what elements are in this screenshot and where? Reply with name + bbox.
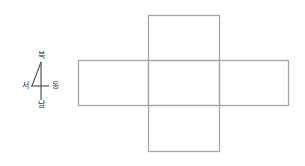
net-face-top — [149, 16, 220, 61]
net-face-left — [79, 61, 149, 106]
net-face-center — [149, 61, 220, 106]
cube-net-diagram — [0, 0, 305, 166]
net-face-bottom — [149, 106, 220, 152]
net-face-right — [220, 61, 289, 106]
